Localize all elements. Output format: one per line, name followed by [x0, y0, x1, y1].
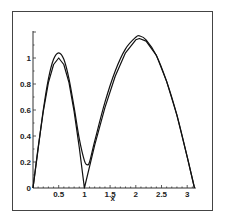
chart-plot: 0.511.522.530.20.40.60.810x [0, 0, 225, 222]
x-tick-label: 2.5 [156, 190, 168, 199]
x-tick-label: 3 [185, 190, 190, 199]
x-tick-label: 2 [134, 190, 139, 199]
y-tick-label: 0.2 [20, 158, 32, 167]
x-axis-label: x [110, 194, 115, 203]
y-tick-label: 0.8 [20, 80, 32, 89]
x-tick-label: 1 [82, 190, 87, 199]
origin-label: 0 [27, 184, 32, 193]
x-tick-label: 0.5 [53, 190, 65, 199]
y-tick-label: 0.4 [20, 132, 32, 141]
chart-frame [13, 12, 213, 211]
y-tick-label: 0.6 [20, 106, 32, 115]
y-tick-label: 1 [27, 54, 32, 63]
